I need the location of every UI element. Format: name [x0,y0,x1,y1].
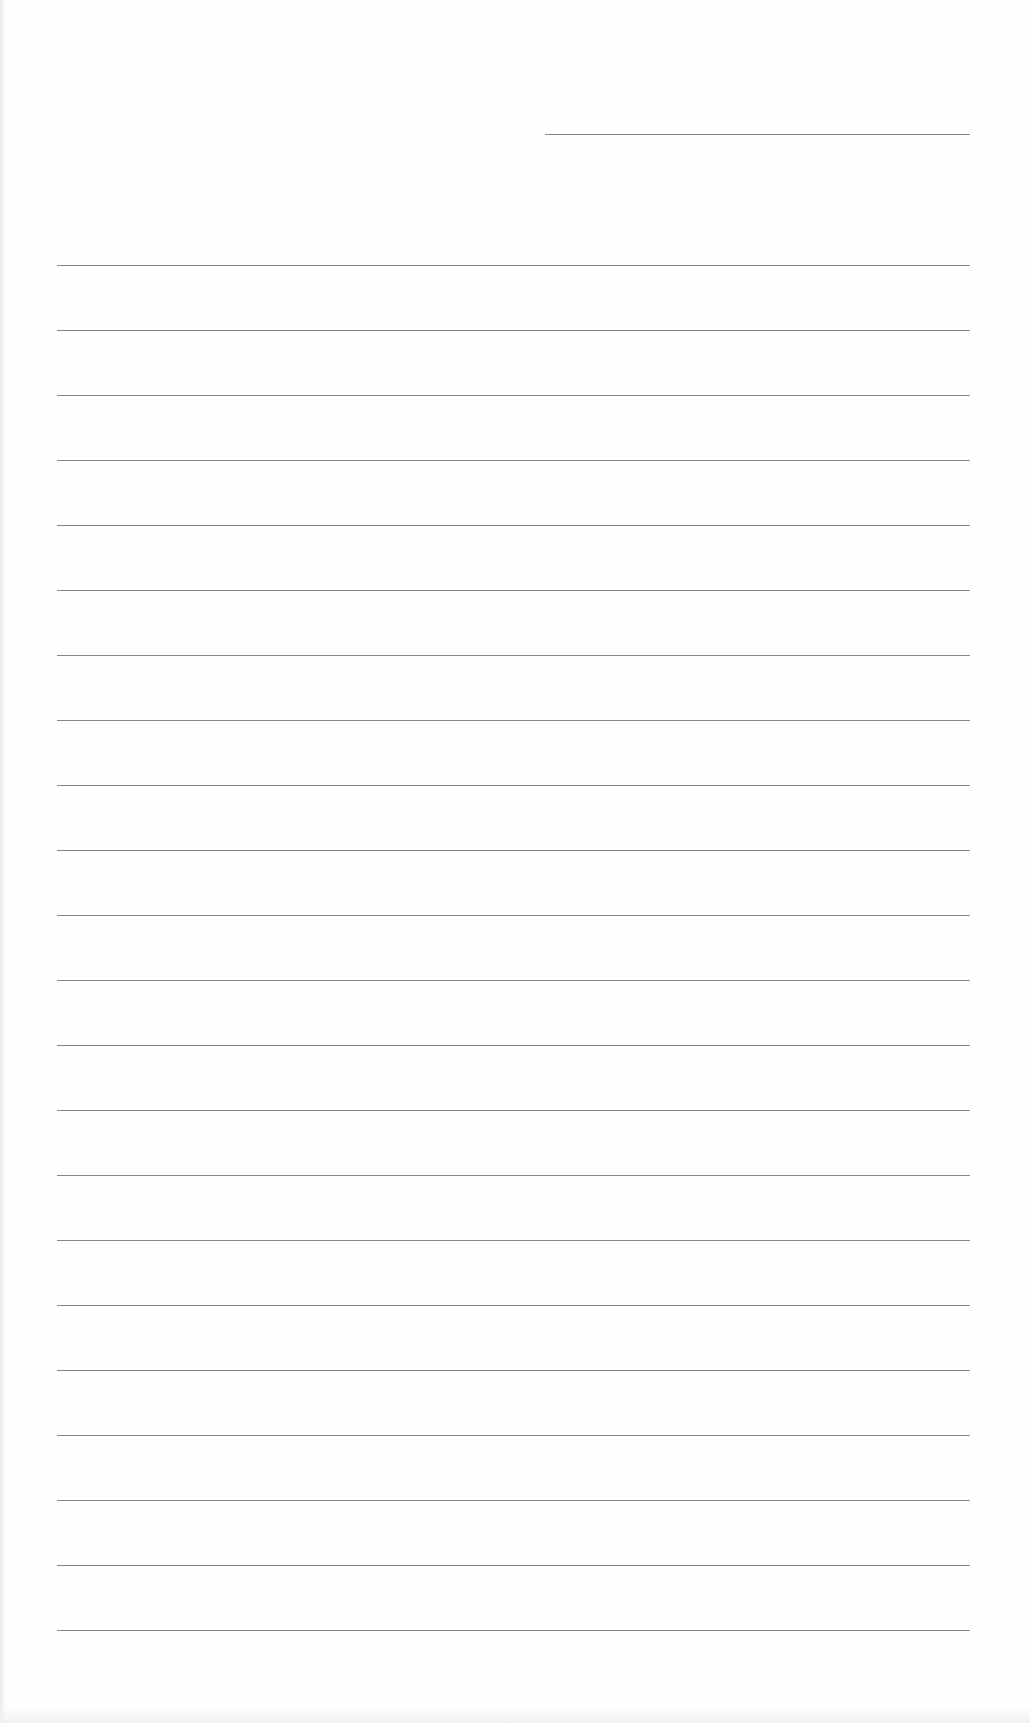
bottom-bleed-through [0,1707,1030,1723]
ruled-line [57,330,970,331]
ruled-line [57,655,970,656]
ruled-line [57,915,970,916]
ruled-line [57,980,970,981]
ruled-line [57,1435,970,1436]
ruled-line [57,265,970,266]
ruled-line [57,1240,970,1241]
ruled-line [57,850,970,851]
ruled-line [57,1630,970,1631]
ruled-line [57,1565,970,1566]
ruled-line [57,590,970,591]
ruled-line [57,785,970,786]
page-edge-shadow [0,0,6,1723]
ruled-line [57,1175,970,1176]
ruled-line [57,1500,970,1501]
header-name-line [545,134,970,135]
ruled-line [57,460,970,461]
lined-paper-page [0,0,1030,1723]
ruled-line [57,1370,970,1371]
ruled-line [57,720,970,721]
ruled-line [57,1045,970,1046]
ruled-line [57,395,970,396]
ruled-line [57,525,970,526]
ruled-line [57,1110,970,1111]
ruled-line [57,1305,970,1306]
